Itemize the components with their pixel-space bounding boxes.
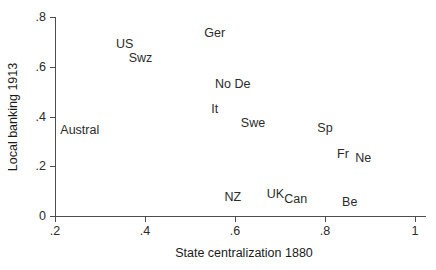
data-point-label: Swz — [129, 52, 153, 65]
x-tick-label: 1 — [412, 225, 419, 238]
y-axis-line — [55, 17, 56, 217]
scatter-chart: 0.2.4.6.8 .2.4.6.81 GerUSSwzNo DeItSweAu… — [0, 0, 436, 270]
data-point-label: It — [211, 103, 218, 116]
x-tick-label: .8 — [320, 225, 330, 238]
x-axis-line — [55, 216, 426, 217]
x-axis-title: State centralization 1880 — [0, 246, 436, 260]
data-point-label: Be — [342, 196, 357, 209]
data-point-label: Austral — [60, 124, 99, 137]
data-point-label: Can — [284, 193, 307, 206]
x-tick-mark — [145, 217, 146, 222]
y-tick-label-wrap: 0 — [0, 210, 46, 223]
y-tick-label-wrap: .8 — [0, 11, 46, 24]
x-tick-mark — [55, 217, 56, 222]
x-tick-label: .4 — [140, 225, 150, 238]
data-point-label: Ne — [355, 152, 371, 165]
x-tick-label: .2 — [50, 225, 60, 238]
y-tick-mark — [50, 17, 55, 18]
y-tick-label: 0 — [0, 210, 46, 223]
data-point-label: Swe — [241, 117, 265, 130]
y-tick-mark — [50, 117, 55, 118]
data-point-label: No De — [215, 78, 250, 91]
x-tick-mark — [415, 217, 416, 222]
y-tick-mark — [50, 67, 55, 68]
y-axis-title: Local banking 1913 — [6, 42, 20, 192]
data-point-label: Fr — [337, 148, 349, 161]
x-tick-label: .6 — [230, 225, 240, 238]
plot-area: 0.2.4.6.8 .2.4.6.81 GerUSSwzNo DeItSweAu… — [0, 0, 436, 270]
data-point-label: Ger — [204, 27, 225, 40]
data-point-label: NZ — [224, 191, 241, 204]
data-point-label: Sp — [317, 122, 332, 135]
data-point-label: UK — [267, 188, 284, 201]
x-tick-mark — [325, 217, 326, 222]
y-tick-label: .8 — [0, 11, 46, 24]
y-tick-mark — [50, 166, 55, 167]
x-tick-mark — [235, 217, 236, 222]
data-point-label: US — [116, 38, 133, 51]
